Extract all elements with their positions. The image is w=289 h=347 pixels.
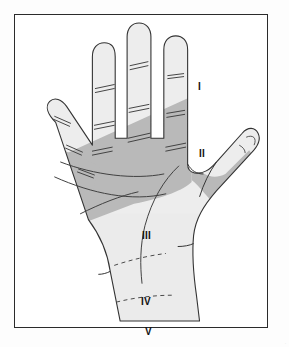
corner-watermark: · (285, 340, 288, 346)
zone-label-v: V (145, 327, 152, 337)
zone-label-i: I (198, 82, 201, 92)
zone-label-iii: III (142, 231, 151, 241)
figure-frame: I II III IV V (14, 14, 268, 328)
hand-diagram (15, 15, 267, 327)
zone-label-iv: IV (141, 297, 151, 307)
figure-canvas: I II III IV V · (0, 0, 289, 347)
zone-label-ii: II (199, 149, 205, 159)
